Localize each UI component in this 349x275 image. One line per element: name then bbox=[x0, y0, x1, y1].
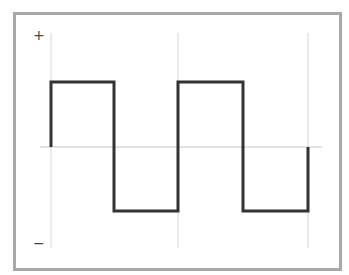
plus-label: + bbox=[33, 28, 45, 42]
square-wave-plot bbox=[0, 0, 349, 275]
minus-label: − bbox=[33, 236, 45, 250]
